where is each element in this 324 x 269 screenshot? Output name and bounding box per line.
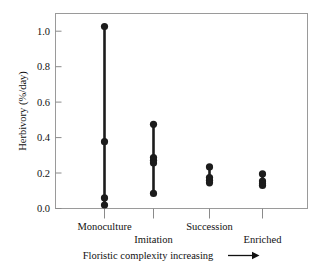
- x-tick-marks: [105, 209, 263, 219]
- y-tick-label-3: 0.6: [37, 97, 50, 108]
- y-tick-label-5: 1.0: [37, 26, 50, 37]
- data-point: [206, 163, 213, 170]
- data-points-enriched: [259, 170, 266, 189]
- data-point: [101, 23, 108, 30]
- data-point: [150, 190, 157, 197]
- data-point: [206, 179, 213, 186]
- increasing-arrow-icon: [228, 252, 260, 259]
- y-tick-label-4: 0.8: [37, 61, 50, 72]
- x-category-label-monoculture: Monoculture: [77, 221, 132, 232]
- figure-container: 0.0 0.2 0.4 0.6 0.8 1.0 Herbivory (%/day…: [0, 0, 324, 269]
- y-tick-label-2: 0.4: [37, 132, 51, 143]
- y-tick-label-0: 0.0: [37, 203, 50, 214]
- data-point: [259, 182, 266, 189]
- data-point: [259, 170, 266, 177]
- x-axis-caption: Floristic complexity increasing: [83, 250, 214, 261]
- x-category-label-succession: Succession: [186, 221, 233, 232]
- data-point: [150, 121, 157, 128]
- y-tick-marks: [56, 31, 62, 208]
- chart-svg: 0.0 0.2 0.4 0.6 0.8 1.0 Herbivory (%/day…: [0, 0, 324, 269]
- data-point: [101, 138, 108, 145]
- x-category-label-enriched: Enriched: [244, 234, 283, 245]
- data-range-bars: [105, 27, 263, 206]
- plot-frame: [56, 14, 308, 209]
- data-points-succession: [206, 163, 213, 186]
- data-point: [150, 159, 157, 166]
- y-tick-label-1: 0.2: [37, 168, 50, 179]
- data-point: [101, 194, 108, 201]
- y-axis-title: Herbivory (%/day): [17, 71, 29, 151]
- data-point: [101, 201, 108, 208]
- x-category-label-imitation: Imitation: [134, 234, 173, 245]
